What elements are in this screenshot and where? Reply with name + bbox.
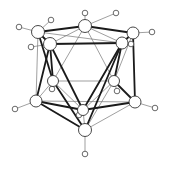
front-bond [38, 26, 85, 32]
hydrogen-atom [114, 88, 120, 94]
hydrogen-atom [49, 86, 55, 92]
hydrogen-atom [128, 41, 134, 47]
cluster-atom [129, 96, 141, 108]
hydrogen-atom [28, 44, 34, 50]
cluster-atom-layer [30, 20, 141, 137]
hydrogen-atom [12, 106, 18, 112]
hydrogen-atom [149, 29, 155, 35]
back-bond [36, 101, 135, 102]
cluster-atom [78, 105, 89, 116]
cluster-atom [109, 76, 120, 87]
icosahedral-cluster-diagram [0, 0, 170, 169]
cluster-atom [127, 27, 139, 39]
hydrogen-atom [82, 10, 88, 16]
hydrogen-atom [82, 151, 88, 157]
hydrogen-atom [113, 10, 119, 16]
cluster-atom [79, 124, 92, 137]
cluster-atom [44, 38, 57, 51]
cluster-atom [30, 95, 42, 107]
front-bond [85, 43, 122, 130]
hydrogen-atom [152, 105, 158, 111]
hydrogen-atom [16, 24, 22, 30]
hydrogen-atom [48, 17, 54, 23]
cluster-atom [79, 20, 92, 33]
front-bond [50, 43, 122, 44]
cluster-atom [116, 37, 128, 49]
cluster-atom [48, 76, 59, 87]
cluster-atom [32, 26, 45, 39]
